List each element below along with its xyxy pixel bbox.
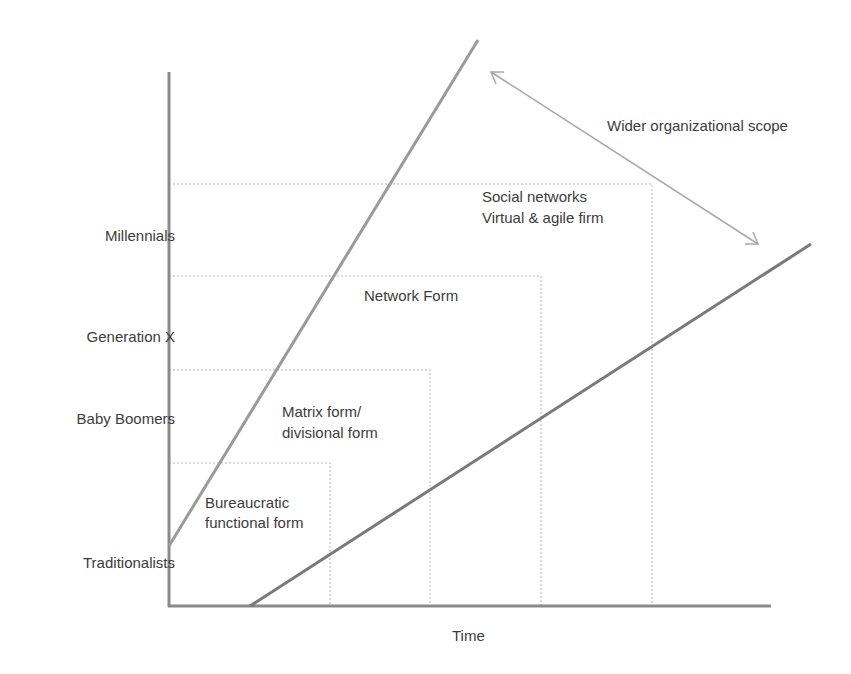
- x-axis-label: Time: [452, 626, 485, 645]
- form-label-bureaucratic-1: Bureaucratic: [205, 493, 289, 512]
- form-label-social-2: Virtual & agile firm: [482, 208, 603, 227]
- y-label-traditionalists: Traditionalists: [0, 553, 175, 572]
- y-label-baby-boomers: Baby Boomers: [0, 409, 175, 428]
- form-label-network: Network Form: [364, 286, 458, 305]
- form-label-social-1: Social networks: [482, 187, 587, 206]
- form-label-bureaucratic-2: functional form: [205, 513, 303, 532]
- y-label-millennials: Millennials: [0, 226, 175, 245]
- scope-annotation: Wider organizational scope: [607, 116, 788, 135]
- y-label-generation-x: Generation X: [0, 327, 175, 346]
- form-label-matrix-2: divisional form: [282, 423, 378, 442]
- box-bureaucratic: [169, 463, 330, 606]
- form-label-matrix-1: Matrix form/: [282, 402, 361, 421]
